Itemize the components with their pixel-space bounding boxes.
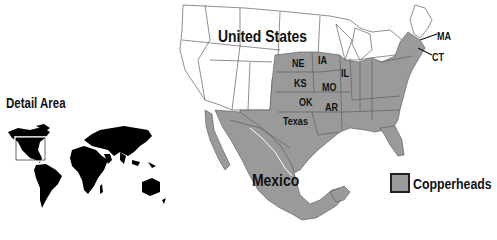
state-label-ks: KS: [294, 77, 307, 89]
state-label-ne: NE: [292, 57, 305, 69]
state-label-ma: MA: [437, 30, 451, 42]
state-label-ok: OK: [299, 96, 313, 108]
legend: Copperheads: [390, 173, 497, 193]
state-label-texas: Texas: [283, 115, 308, 127]
united-states-label: United States: [218, 27, 307, 47]
legend-label-copperheads: Copperheads: [413, 175, 492, 192]
state-label-ct: CT: [432, 51, 444, 63]
legend-swatch-copperheads: [390, 173, 410, 193]
state-label-il: IL: [341, 67, 349, 79]
state-label-mo: MO: [322, 81, 337, 93]
detail-area-label: Detail Area: [6, 95, 66, 111]
state-label-ia: IA: [318, 54, 327, 66]
state-label-ar: AR: [325, 101, 338, 113]
mexico-label: Mexico: [252, 171, 299, 191]
